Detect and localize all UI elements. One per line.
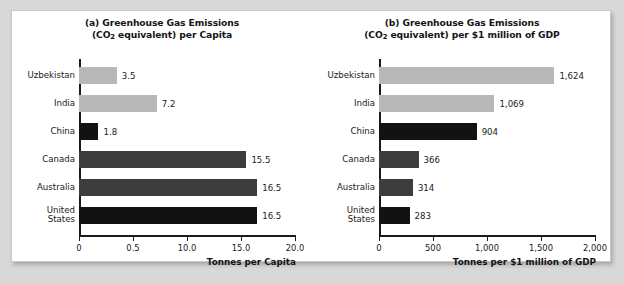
bar-row [379, 179, 413, 196]
x-axis-tick [379, 236, 380, 241]
bar-value-label: 7.2 [162, 99, 176, 109]
bar-value-label: 3.5 [122, 71, 136, 81]
bar-value-label: 1.8 [103, 127, 117, 137]
x-axis-tick [187, 236, 188, 241]
x-axis-tick-label: 1,500 [529, 243, 553, 253]
bar-row [79, 123, 98, 140]
bar-china[interactable] [79, 123, 98, 140]
bar-australia[interactable] [79, 179, 257, 196]
x-axis-title: Tonnes per Capita [207, 257, 296, 267]
category-label: Uzbekistan [14, 71, 75, 81]
bar-australia[interactable] [379, 179, 413, 196]
x-axis-tick-label: 0 [376, 243, 381, 253]
category-label: United States [314, 206, 375, 225]
category-label: Canada [314, 155, 375, 165]
x-axis-tick-label: 15.0 [232, 243, 251, 253]
bar-row [79, 179, 257, 196]
x-axis-tick [133, 236, 134, 241]
x-axis-tick-label: 500 [425, 243, 441, 253]
bar-india[interactable] [379, 95, 494, 112]
bar-row [79, 207, 257, 224]
x-axis-tick-label: 0 [76, 243, 81, 253]
x-axis-tick-label: 1,000 [475, 243, 499, 253]
chart-panel-b: (b) Greenhouse Gas Emissions (CO2 equiva… [312, 11, 612, 263]
bar-uzbekistan[interactable] [79, 67, 117, 84]
bar-value-label: 1,624 [559, 71, 584, 81]
category-label: China [314, 127, 375, 137]
x-axis-tick [433, 236, 434, 241]
bar-value-label: 904 [482, 127, 498, 137]
bar-value-label: 15.5 [251, 155, 270, 165]
bar-row [379, 151, 419, 168]
category-label: Uzbekistan [314, 71, 375, 81]
bar-china[interactable] [379, 123, 477, 140]
category-label: India [314, 99, 375, 109]
figure-card: (a) Greenhouse Gas Emissions (CO2 equiva… [11, 10, 611, 262]
x-axis-tick-label: 2,000 [583, 243, 607, 253]
bar-canada[interactable] [79, 151, 246, 168]
bar-value-label: 366 [424, 155, 440, 165]
bar-canada[interactable] [379, 151, 419, 168]
x-axis-tick [79, 236, 80, 241]
bar-row [79, 67, 117, 84]
x-axis-tick [241, 236, 242, 241]
x-axis-tick-label: 10.0 [178, 243, 197, 253]
bar-uzbekistan[interactable] [379, 67, 554, 84]
bar-value-label: 283 [415, 211, 431, 221]
panel-a-plot-area: 3.5Uzbekistan7.2India1.8China15.5Canada1… [12, 11, 312, 263]
bar-row [79, 151, 246, 168]
bar-value-label: 16.5 [262, 183, 281, 193]
category-label: Canada [14, 155, 75, 165]
category-label: Australia [14, 183, 75, 193]
bar-row [379, 67, 554, 84]
bar-value-label: 16.5 [262, 211, 281, 221]
x-axis-title: Tonnes per $1 million of GDP [453, 257, 596, 267]
x-axis-tick [541, 236, 542, 241]
x-axis-tick [595, 236, 596, 241]
bar-india[interactable] [79, 95, 157, 112]
bar-row [379, 95, 494, 112]
bar-united-states[interactable] [379, 207, 410, 224]
bar-value-label: 314 [418, 183, 434, 193]
x-axis-tick-label: 20.0 [286, 243, 305, 253]
bar-united-states[interactable] [79, 207, 257, 224]
x-axis-tick [487, 236, 488, 241]
bar-row [379, 207, 410, 224]
category-label: China [14, 127, 75, 137]
chart-panel-a: (a) Greenhouse Gas Emissions (CO2 equiva… [12, 11, 312, 263]
panel-b-plot-area: 1,624Uzbekistan1,069India904China366Cana… [312, 11, 612, 263]
bar-row [379, 123, 477, 140]
x-axis-tick-label: 0.5 [126, 243, 139, 253]
category-label: United States [14, 206, 75, 225]
bar-row [79, 95, 157, 112]
category-label: Australia [314, 183, 375, 193]
x-axis-tick [295, 236, 296, 241]
category-label: India [14, 99, 75, 109]
bar-value-label: 1,069 [499, 99, 524, 109]
